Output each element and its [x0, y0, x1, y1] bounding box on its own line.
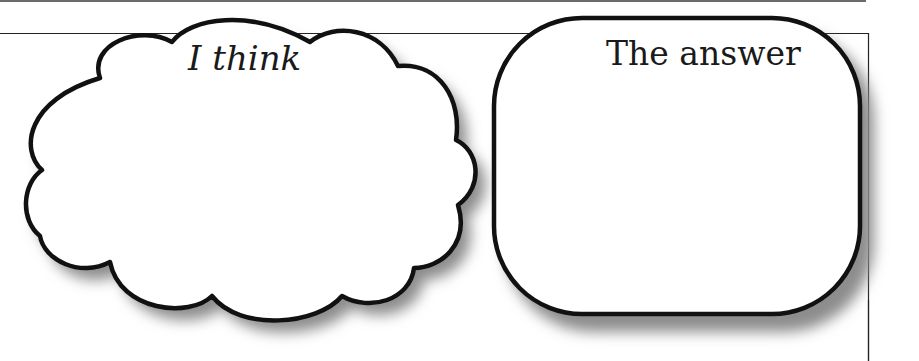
answer-box-label: The answer [606, 34, 801, 73]
top-rule [0, 0, 866, 2]
think-bubble-label: I think [188, 38, 301, 78]
